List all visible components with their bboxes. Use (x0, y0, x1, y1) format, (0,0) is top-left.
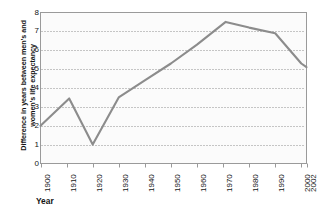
x-tick-label: 1950 (174, 174, 182, 192)
x-axis-tick-labels: 1900191019201930194019501960197019801990… (0, 0, 322, 215)
x-tick-label: 1930 (122, 174, 130, 192)
line-chart: Difference in years between men's and wo… (0, 0, 322, 215)
x-tick-label: 1960 (200, 174, 208, 192)
x-tick-label: 1920 (96, 174, 104, 192)
x-tick-label: 1970 (226, 174, 234, 192)
x-tick-label: 2002 (310, 174, 318, 192)
x-tick-label: 1980 (252, 174, 260, 192)
x-tick-label: 1990 (278, 174, 286, 192)
x-tick-label: 1910 (70, 174, 78, 192)
x-tick-label: 1900 (44, 174, 52, 192)
x-axis-title: Year (36, 196, 54, 206)
x-tick-label: 1940 (148, 174, 156, 192)
